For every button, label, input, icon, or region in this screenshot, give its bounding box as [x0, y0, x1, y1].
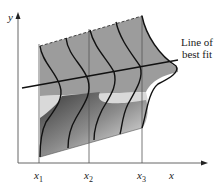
y-axis-label: y: [8, 12, 13, 23]
tick-subscript: 2: [89, 175, 93, 184]
x-axis-arrow-icon: [201, 161, 208, 166]
tick-subscript: 3: [142, 175, 146, 184]
x-axis-label: x: [169, 170, 174, 181]
regression-surface-diagram: [0, 0, 221, 193]
annotation-line-2: best fit: [174, 48, 220, 60]
y-axis-arrow-icon: [16, 12, 21, 19]
tick-label-x3: x3: [137, 170, 146, 184]
annotation-line-1: Line of: [174, 36, 220, 48]
best-fit-annotation: Line of best fit: [174, 36, 220, 60]
tick-label-x1: x1: [34, 170, 43, 184]
tick-label-x2: x2: [84, 170, 93, 184]
tick-subscript: 1: [39, 175, 43, 184]
